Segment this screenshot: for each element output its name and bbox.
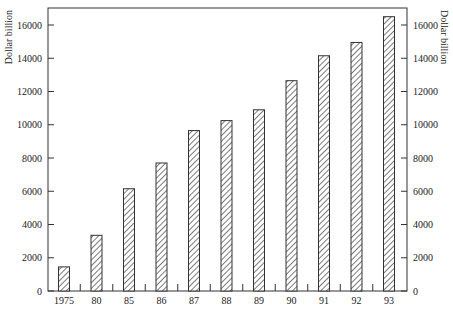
x-tick-label: 1975	[54, 295, 74, 306]
x-tick-label: 92	[352, 295, 362, 306]
y-tick-label-right: 12000	[413, 86, 438, 97]
x-tick-label: 88	[222, 295, 232, 306]
bar-1975	[59, 267, 70, 291]
bar-87	[189, 131, 200, 291]
y-axis-label-right: Dollar billion	[439, 10, 450, 64]
bar-88	[221, 121, 232, 291]
y-tick-label-left: 0	[37, 286, 42, 297]
y-tick-label-right: 6000	[413, 186, 433, 197]
y-tick-label-left: 16000	[17, 20, 42, 31]
y-axis-label-left: Dollar billion	[3, 10, 14, 64]
x-tick-label: 89	[254, 295, 264, 306]
x-tick-label: 93	[384, 295, 394, 306]
y-tick-label-right: 16000	[413, 20, 438, 31]
y-tick-label-left: 10000	[17, 119, 42, 130]
bar-92	[351, 42, 362, 291]
bar-91	[319, 56, 330, 291]
bar-86	[156, 163, 167, 291]
y-tick-label-right: 8000	[413, 153, 433, 164]
bar-chart: 0200040006000800010000120001400016000 02…	[0, 0, 453, 311]
x-tick-label: 86	[157, 295, 167, 306]
bar-89	[254, 110, 265, 291]
y-tick-label-right: 2000	[413, 252, 433, 263]
y-tick-label-left: 8000	[22, 153, 42, 164]
bar-85	[124, 189, 135, 291]
y-tick-label-left: 6000	[22, 186, 42, 197]
bars	[59, 17, 395, 291]
x-tick-label: 90	[287, 295, 297, 306]
y-tick-label-right: 0	[413, 286, 418, 297]
bar-93	[384, 17, 395, 291]
y-tick-label-right: 10000	[413, 119, 438, 130]
x-tick-label: 85	[124, 295, 134, 306]
y-tick-label-right: 4000	[413, 219, 433, 230]
y-tick-label-left: 2000	[22, 252, 42, 263]
y-tick-label-left: 4000	[22, 219, 42, 230]
x-tick-label: 80	[92, 295, 102, 306]
x-tick-label: 91	[319, 295, 329, 306]
bar-90	[286, 81, 297, 291]
y-tick-label-left: 14000	[17, 53, 42, 64]
y-tick-label-right: 14000	[413, 53, 438, 64]
y-tick-label-left: 12000	[17, 86, 42, 97]
x-tick-label: 87	[189, 295, 199, 306]
bar-80	[91, 235, 102, 291]
